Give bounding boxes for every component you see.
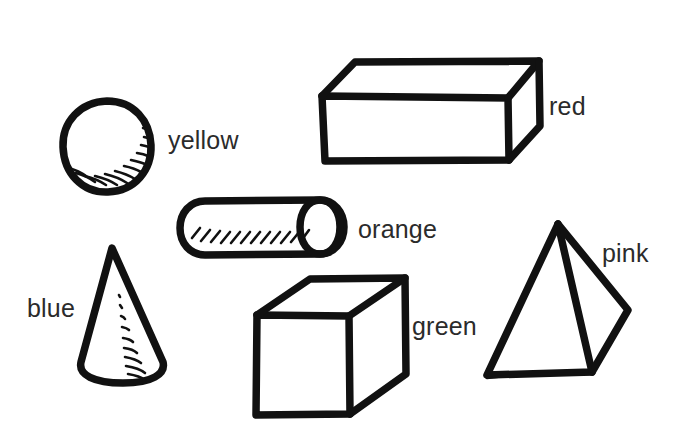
label-red: red [549,94,586,119]
cube-front-face [256,315,350,415]
shape-rectangular-prism [322,61,540,161]
cube-top-face [257,278,405,316]
sphere-shading [69,119,149,185]
label-orange: orange [358,217,437,242]
shape-sphere [63,101,151,192]
cylinder-outline [180,200,344,255]
shapes-diagram: yellow red orange blue green pink [0,0,679,448]
label-yellow: yellow [168,128,239,153]
box-top-face [322,61,539,98]
shape-cube [256,278,406,415]
label-pink: pink [602,241,649,266]
label-green: green [412,314,477,339]
cylinder-end-cap [300,200,340,254]
shape-cone [81,248,164,383]
shapes-canvas [0,0,679,448]
shape-cylinder [180,200,344,255]
box-front-face [322,96,509,161]
cylinder-shading [192,228,309,243]
label-blue: blue [27,296,75,321]
